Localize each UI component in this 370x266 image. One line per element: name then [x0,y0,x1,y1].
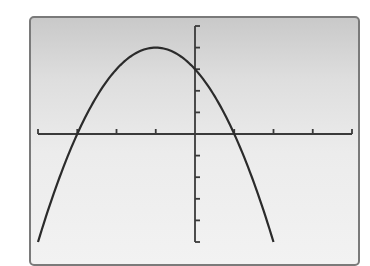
parabola-curve [38,48,274,242]
axes [38,26,352,242]
